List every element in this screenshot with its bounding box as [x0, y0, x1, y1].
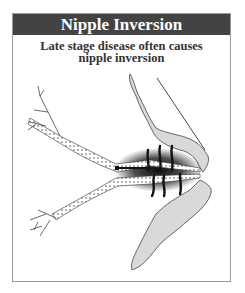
breast-duct-illustration: [0, 0, 245, 293]
tumor-dot: [115, 166, 119, 170]
lower-skin-flap: [131, 180, 211, 270]
